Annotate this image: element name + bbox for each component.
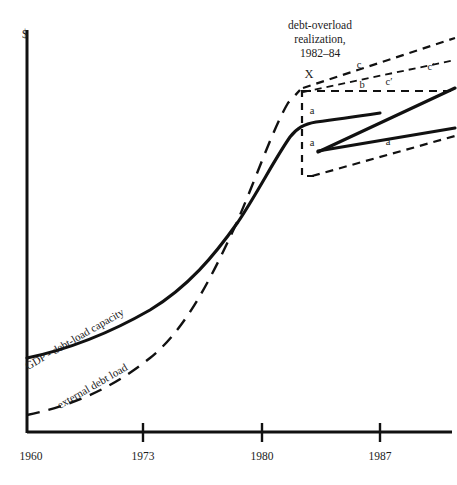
projection-line-a	[312, 136, 455, 176]
annotation-gap-a-lower: a	[310, 137, 315, 148]
annotation-path-a-lower: a	[386, 136, 391, 147]
annotation-path-c-prime-right: c′	[428, 61, 435, 72]
gap-bracket	[302, 90, 318, 176]
curve-label-gdp: GDP - debt-load capacity	[23, 305, 126, 371]
x-tick-label-1973: 1973	[132, 450, 155, 462]
annotation-title-line2: realization,	[294, 33, 346, 46]
annotation-path-c: c	[357, 59, 362, 70]
annotation-gap-a-upper: a	[310, 105, 315, 116]
x-tick-label-1980: 1980	[251, 450, 274, 462]
annotation-path-c-prime-mid: c′	[386, 76, 393, 87]
curve-label-external-debt: external debt load	[55, 361, 130, 411]
gap-bracket-path	[302, 90, 318, 176]
y-axis-label: $	[22, 27, 28, 41]
chart-svg: $ 1960 1973 1980 1987 GDP - debt-load ca…	[0, 0, 457, 485]
annotation-path-b: b	[359, 79, 364, 90]
chart-figure: $ 1960 1973 1980 1987 GDP - debt-load ca…	[0, 0, 457, 485]
series-external-debt-load	[27, 90, 300, 415]
annotation-title-line3: 1982–84	[300, 47, 341, 59]
x-tick-label-1960: 1960	[20, 450, 43, 462]
annotation-title-line1: debt-overload	[288, 19, 352, 31]
annotation-crisis-marker-x: X	[304, 67, 313, 81]
x-tick-label-1987: 1987	[369, 450, 392, 462]
